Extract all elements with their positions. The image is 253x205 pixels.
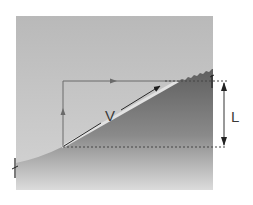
- height-label: L: [231, 108, 239, 125]
- down-arrow-icon: [221, 137, 227, 146]
- velocity-label: V: [105, 107, 115, 124]
- height-dimension: [221, 82, 227, 146]
- slope-diagram: V L: [0, 0, 253, 205]
- up-arrow-icon: [221, 82, 227, 91]
